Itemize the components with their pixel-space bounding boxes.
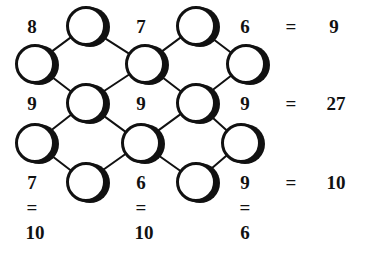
node-circle[interactable] (17, 46, 54, 83)
puzzle-canvas: 876999769=9=27=10=10=10=6 (0, 0, 366, 256)
clue-number: 7 (27, 173, 37, 192)
graph-edge (156, 114, 180, 132)
node-circle[interactable] (178, 164, 215, 201)
clue-number: 9 (240, 94, 250, 113)
column-sum-value: 10 (135, 223, 154, 242)
puzzle-node[interactable] (17, 124, 60, 164)
column-equals-sign: = (136, 198, 147, 217)
puzzle-node[interactable] (123, 124, 166, 164)
graph-edge (102, 154, 126, 171)
graph-edge (160, 37, 181, 52)
puzzle-node[interactable] (178, 7, 221, 47)
clue-number: 9 (27, 94, 37, 113)
graph-edge (211, 76, 231, 92)
clue-number: 6 (240, 17, 250, 36)
row-equals-sign: = (286, 94, 297, 113)
puzzle-node[interactable] (223, 124, 266, 164)
node-circle[interactable] (228, 46, 265, 83)
node-circle[interactable] (17, 125, 54, 162)
clue-number: 9 (136, 94, 146, 113)
column-sum-value: 10 (26, 223, 45, 242)
column-equals-sign: = (240, 198, 251, 217)
graph-edge (50, 115, 71, 132)
node-circle[interactable] (68, 8, 105, 45)
node-circle[interactable] (127, 46, 164, 83)
puzzle-node[interactable] (68, 84, 111, 124)
column-equals-sign: = (27, 198, 38, 217)
puzzle-node[interactable] (178, 84, 221, 124)
puzzle-node[interactable] (68, 163, 111, 203)
node-circle[interactable] (178, 85, 215, 122)
puzzle-node[interactable] (228, 45, 271, 85)
node-circle[interactable] (223, 125, 260, 162)
node-circle[interactable] (68, 85, 105, 122)
puzzle-node[interactable] (178, 163, 221, 203)
row-sum-value: 9 (329, 17, 339, 36)
node-circle[interactable] (178, 8, 215, 45)
graph-edge (50, 37, 71, 52)
row-sum-value: 10 (327, 173, 346, 192)
clue-number: 8 (27, 17, 37, 36)
row-sum-value: 27 (327, 94, 346, 113)
node-circle[interactable] (123, 125, 160, 162)
graph-edge (210, 155, 226, 169)
clue-number: 7 (136, 17, 146, 36)
row-equals-sign: = (286, 17, 297, 36)
puzzle-graph (0, 0, 366, 256)
puzzle-node[interactable] (127, 45, 170, 85)
node-circle[interactable] (68, 164, 105, 201)
graph-edge (102, 74, 129, 92)
clue-number: 9 (240, 173, 250, 192)
puzzle-node[interactable] (68, 7, 111, 47)
row-equals-sign: = (286, 173, 297, 192)
puzzle-node[interactable] (17, 45, 60, 85)
column-sum-value: 6 (240, 223, 250, 242)
clue-number: 6 (136, 173, 146, 192)
